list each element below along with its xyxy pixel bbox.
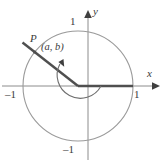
point-p-marker <box>33 50 36 53</box>
tick-label-left-negative-one: –1 <box>5 89 16 100</box>
x-axis-arrowhead <box>152 82 160 90</box>
y-axis-label: y <box>93 6 98 17</box>
tick-label-top-one: 1 <box>70 16 76 27</box>
tick-label-right-one: 1 <box>134 89 140 100</box>
tick-label-bottom-negative-one: –1 <box>63 144 74 155</box>
y-axis-arrowhead <box>84 10 92 18</box>
unit-circle-graphic <box>0 0 166 164</box>
angle-arc <box>57 64 101 98</box>
point-p-label: P <box>30 33 37 44</box>
point-coordinates-label: (a, b) <box>41 42 64 53</box>
unit-circle-figure: y x 1 1 –1 –1 P (a, b) <box>0 0 166 164</box>
x-axis-label: x <box>147 68 152 79</box>
